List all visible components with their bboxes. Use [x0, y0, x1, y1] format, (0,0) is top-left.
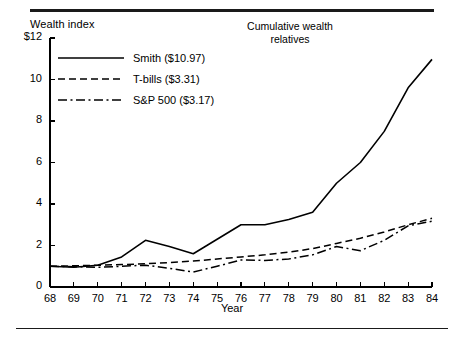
- y-tick-label: 6: [0, 155, 42, 167]
- y-tick-label: 0: [0, 279, 42, 291]
- y-tick-label: 4: [0, 196, 42, 208]
- legend-line-sample: [58, 52, 126, 64]
- legend-label: Smith ($10.97): [133, 52, 205, 64]
- legend-line-sample: [58, 94, 126, 106]
- legend-item: T-bills ($3.31): [58, 68, 214, 89]
- figure-container: Wealth index Year Cumulative wealth rela…: [0, 0, 464, 342]
- legend-line-sample: [58, 73, 126, 85]
- chart-legend: Smith ($10.97)T-bills ($3.31)S&P 500 ($3…: [58, 47, 214, 110]
- legend-item: Smith ($10.97): [58, 47, 214, 68]
- y-tick-label: 8: [0, 113, 42, 125]
- legend-label: S&P 500 ($3.17): [133, 94, 214, 106]
- y-tick-label: 10: [0, 72, 42, 84]
- y-tick-label: 2: [0, 238, 42, 250]
- legend-label: T-bills ($3.31): [133, 73, 200, 85]
- y-tick-label: $12: [0, 30, 42, 42]
- legend-item: S&P 500 ($3.17): [58, 89, 214, 110]
- x-tick-label: 84: [418, 292, 446, 304]
